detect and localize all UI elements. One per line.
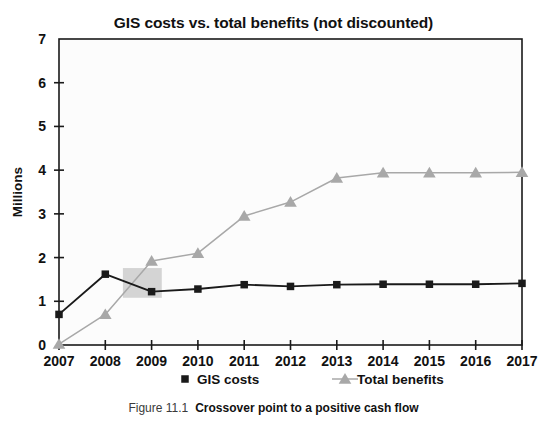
data-point-marker: [148, 288, 156, 296]
y-axis-title: Millions: [10, 167, 25, 217]
legend-label: GIS costs: [197, 372, 259, 387]
data-point-marker: [518, 280, 526, 288]
x-axis-tick-label: 2009: [136, 353, 167, 369]
x-axis-tick-label: 2012: [275, 353, 306, 369]
legend-item-total-benefits[interactable]: Total benefits: [332, 372, 444, 387]
x-axis-tick-label: 2014: [368, 353, 399, 369]
y-axis-tick-label: 0: [38, 337, 46, 353]
data-point-marker: [472, 280, 480, 288]
x-axis-tick-label: 2016: [460, 353, 491, 369]
caption-number: Figure 11.1: [128, 401, 188, 415]
x-axis-tick-label: 2010: [182, 353, 213, 369]
y-axis-tick-label: 7: [38, 31, 46, 47]
plot-area-background: [59, 39, 522, 345]
x-axis-tick-label: 2013: [321, 353, 352, 369]
x-axis-tick-label: 2008: [90, 353, 121, 369]
y-axis-tick-label: 1: [38, 293, 46, 309]
x-axis-tick-label: 2017: [506, 353, 537, 369]
y-axis-tick-label: 5: [38, 118, 46, 134]
y-axis-tick-label: 4: [38, 162, 46, 178]
data-point-marker: [379, 280, 387, 288]
y-axis-tick-label: 6: [38, 75, 46, 91]
data-point-marker: [55, 311, 63, 319]
y-axis-tick-label: 2: [38, 250, 46, 266]
data-point-marker: [240, 281, 248, 289]
legend-label: Total benefits: [357, 372, 444, 387]
data-point-marker: [426, 280, 434, 288]
x-axis-tick-label: 2011: [229, 353, 260, 369]
chart-canvas: 01234567Millions200720082009201020112012…: [0, 0, 547, 431]
data-point-marker: [333, 281, 341, 289]
figure-container: GIS costs vs. total benefits (not discou…: [0, 0, 547, 431]
chart-title: GIS costs vs. total benefits (not discou…: [0, 14, 547, 32]
x-axis-tick-label: 2015: [414, 353, 445, 369]
legend-marker-square: [181, 375, 189, 383]
legend-item-gis-costs[interactable]: GIS costs: [181, 372, 259, 387]
data-point-marker: [194, 285, 202, 293]
data-point-marker: [287, 283, 295, 291]
y-axis-tick-label: 3: [38, 206, 46, 222]
x-axis-tick-label: 2007: [43, 353, 74, 369]
data-point-marker: [102, 270, 110, 278]
caption-text: Crossover point to a positive cash flow: [195, 401, 418, 415]
figure-caption: Figure 11.1Crossover point to a positive…: [0, 401, 547, 415]
